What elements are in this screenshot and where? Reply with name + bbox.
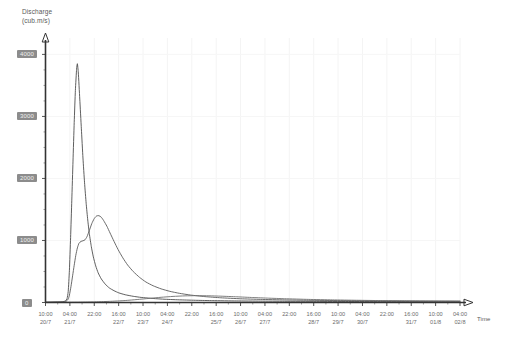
plot-area xyxy=(0,0,508,344)
x-tick-label: 10:0020/7 xyxy=(38,311,52,326)
x-tick-time: 04:00 xyxy=(63,311,77,317)
x-tick-label: 04:0021/7 xyxy=(63,311,77,326)
curve-broad-peak-hydrograph xyxy=(46,216,461,303)
curve-sharp-peak-hydrograph xyxy=(46,64,461,302)
x-tick-date: 25/7 xyxy=(211,319,222,325)
x-tick-label: 10:0026/7 xyxy=(233,311,247,326)
x-tick-time: 16:00 xyxy=(307,311,321,317)
x-tick-date: 01/8 xyxy=(430,319,441,325)
x-tick-date: 28/7 xyxy=(308,319,319,325)
x-tick-label: 10:0029/7 xyxy=(331,311,345,326)
x-tick-time: 22:00 xyxy=(380,311,394,317)
x-tick-label: 04:0024/7 xyxy=(160,311,174,326)
x-tick-time: 16:00 xyxy=(112,311,126,317)
x-tick-time: 10:00 xyxy=(428,311,442,317)
gridlines xyxy=(46,38,461,303)
x-tick-time: 10:00 xyxy=(233,311,247,317)
y-tick-label: 0 xyxy=(22,299,32,307)
x-tick-time: 04:00 xyxy=(258,311,272,317)
x-tick-date: 02/8 xyxy=(454,319,465,325)
x-axis-title: Time xyxy=(477,316,491,322)
x-tick-label: 04:0030/7 xyxy=(355,311,369,326)
x-tick-time: 10:00 xyxy=(136,311,150,317)
x-tick-date: 31/7 xyxy=(406,319,417,325)
y-tick-label: 1000 xyxy=(17,236,37,244)
x-tick-label: 10:0001/8 xyxy=(428,311,442,326)
chart-canvas: Discharge(cub.m/s) 01000200030004000 10:… xyxy=(0,0,508,344)
y-tick-label: 4000 xyxy=(17,50,37,58)
x-tick-time: 16:00 xyxy=(209,311,223,317)
x-tick-date: 27/7 xyxy=(259,319,270,325)
y-tick-label: 3000 xyxy=(17,112,37,120)
x-tick-label: 22:00 xyxy=(87,311,101,319)
y-tick-label: 2000 xyxy=(17,174,37,182)
x-tick-date: 21/7 xyxy=(64,319,75,325)
x-tick-label: 16:0022/7 xyxy=(112,311,126,326)
x-tick-time: 16:00 xyxy=(404,311,418,317)
x-tick-date: 22/7 xyxy=(113,319,124,325)
axis-lines xyxy=(42,33,473,306)
x-tick-date: 24/7 xyxy=(162,319,173,325)
x-tick-time: 22:00 xyxy=(87,311,101,317)
x-tick-time: 10:00 xyxy=(331,311,345,317)
x-tick-label: 22:00 xyxy=(282,311,296,319)
x-tick-time: 04:00 xyxy=(355,311,369,317)
x-tick-time: 22:00 xyxy=(185,311,199,317)
x-tick-label: 22:00 xyxy=(185,311,199,319)
x-tick-label: 10:0023/7 xyxy=(136,311,150,326)
x-tick-label: 16:0028/7 xyxy=(307,311,321,326)
x-tick-date: 26/7 xyxy=(235,319,246,325)
x-tick-date: 23/7 xyxy=(137,319,148,325)
x-tick-time: 04:00 xyxy=(453,311,467,317)
x-tick-label: 16:0025/7 xyxy=(209,311,223,326)
x-tick-label: 04:0002/8 xyxy=(453,311,467,326)
x-tick-date: 20/7 xyxy=(40,319,51,325)
x-tick-label: 22:00 xyxy=(380,311,394,319)
data-curves xyxy=(46,64,461,303)
x-tick-time: 22:00 xyxy=(282,311,296,317)
x-tick-label: 16:0031/7 xyxy=(404,311,418,326)
x-tick-label: 04:0027/7 xyxy=(258,311,272,326)
x-tick-date: 30/7 xyxy=(357,319,368,325)
x-tick-date: 29/7 xyxy=(333,319,344,325)
x-tick-time: 04:00 xyxy=(160,311,174,317)
x-tick-time: 10:00 xyxy=(38,311,52,317)
